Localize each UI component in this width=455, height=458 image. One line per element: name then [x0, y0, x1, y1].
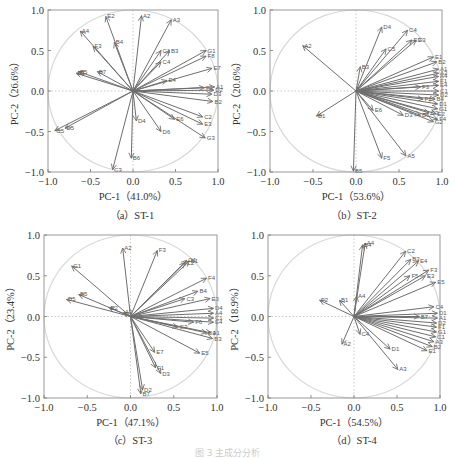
vector-label: E6: [176, 116, 184, 122]
x-axis-label: PC-1（47.1%）: [96, 417, 165, 428]
x-axis-label: PC-1（53.6%）: [322, 191, 391, 202]
vector-label: B4: [199, 288, 207, 294]
vector-label: C5: [388, 46, 396, 52]
vector-label: C4: [409, 27, 417, 33]
vector-label: C2: [407, 248, 415, 254]
vector-label: G1: [73, 263, 82, 269]
vector-label: A2: [124, 245, 132, 251]
vector-label: B3: [362, 64, 370, 70]
vector-label: A3: [173, 17, 181, 23]
vector-label: D1: [392, 346, 400, 352]
y-tick-label: −0.5: [25, 127, 44, 138]
y-tick-label: −1.0: [245, 393, 264, 404]
x-tick-label: 0.0: [126, 176, 139, 187]
loading-vectors: A2D4C4E3G3C5E1B2B3A1A3A4F1E4F3C1D2B4F2D1…: [303, 24, 449, 174]
vector-label: E1: [429, 348, 437, 354]
vector-label: C3: [186, 296, 194, 302]
vector-label: B7: [421, 314, 429, 320]
vector-label: D4: [138, 118, 146, 124]
vector-label: D6: [163, 129, 171, 135]
x-tick-label: 0.0: [347, 402, 360, 413]
vector-label: E5: [437, 279, 445, 285]
y-tick-label: 0.0: [251, 312, 264, 323]
y-axis-label: PC-2（18.9%）: [229, 282, 240, 351]
loading-vectors: E2A2A3A4B4F3C1B3C4G1F8B5E1B7E7E4F1A1D2D3…: [55, 13, 224, 173]
y-tick-label: 0.5: [251, 271, 264, 282]
x-tick-label: 1.0: [210, 402, 223, 413]
vector-label: A2: [304, 43, 312, 49]
panel-caption-b: （b）ST-2: [244, 207, 455, 222]
vector-label: A2: [143, 13, 151, 19]
vector-label: C3: [431, 110, 439, 116]
vector-label: B1: [341, 297, 349, 303]
vector-label: G3: [418, 37, 427, 43]
vector-label: F2: [321, 297, 329, 303]
y-tick-label: 0.5: [253, 46, 266, 57]
y-tick-label: 0.0: [27, 312, 40, 323]
y-tick-label: 0.5: [31, 46, 44, 57]
pca-loading-plot-c: A2F3G1B1C2G1F4B4C3E3B5D5E2A3D4A4C1E4F6G3…: [0, 225, 228, 445]
y-axis-label: PC-2（20.6%）: [231, 57, 242, 126]
vector-label: F6: [195, 319, 203, 325]
x-tick-label: 0.5: [167, 402, 180, 413]
vector-label: E3: [204, 121, 212, 127]
panel-st1: E2A2A3A4B4F3C1B3C4G1F8B5E1B7E7E4F1A1D2D3…: [0, 0, 228, 225]
y-tick-label: 0.0: [31, 86, 44, 97]
vector-label: B7: [99, 69, 107, 75]
y-tick-label: 1.0: [31, 5, 44, 16]
vector-label: C2: [204, 114, 212, 120]
vector-label: A2: [343, 341, 351, 347]
y-axis-label: PC-2（23.4%）: [5, 282, 16, 351]
vector-label: B4: [364, 242, 372, 248]
vector-label: B3: [214, 336, 222, 342]
vector-label: B7: [142, 391, 150, 397]
y-tick-label: 0.5: [27, 271, 40, 282]
vector-label: G3: [207, 135, 216, 141]
vector-label: D4: [383, 24, 391, 30]
vector-label: E6: [375, 107, 383, 113]
y-axis-label: PC-2（26.6%）: [9, 57, 20, 126]
panel-caption-a: （a）ST-1: [22, 207, 242, 222]
panel-caption-c: （c）ST-3: [20, 432, 240, 447]
y-tick-label: −1.0: [25, 167, 44, 178]
vector-label: A3: [399, 366, 407, 372]
x-tick-label: 1.0: [433, 402, 446, 413]
loading-vectors: A4B4C2B3E4F3F5E3E5A4F2B1C4B7D1A1D2F1G1C1…: [320, 240, 448, 372]
x-tick-label: −0.5: [78, 402, 97, 413]
vector-label: F3: [422, 84, 430, 90]
vector-label: E4: [215, 319, 223, 325]
x-tick-label: −0.5: [81, 176, 100, 187]
x-tick-label: 1.0: [211, 176, 224, 187]
x-axis-label: PC-1（41.0%）: [99, 191, 168, 202]
vector-label: A4: [358, 293, 366, 299]
vector-label: E7: [156, 349, 164, 355]
x-tick-label: 1.0: [435, 176, 448, 187]
panel-st4: A4B4C2B3E4F3F5E3E5A4F2B1C4B7D1A1D2F1G1C1…: [228, 225, 455, 445]
pca-loading-plot-b: A2D4C4E3G3C5E1B2B3A1A3A4F1E4F3C1D2B4F2D1…: [228, 0, 455, 225]
x-tick-label: 0.5: [392, 176, 405, 187]
x-tick-label: 0.5: [390, 402, 403, 413]
vector-label: D5: [67, 125, 75, 131]
y-tick-label: −0.5: [21, 352, 40, 363]
x-tick-label: 0.0: [349, 176, 362, 187]
y-tick-label: 0.0: [253, 86, 266, 97]
y-tick-label: −1.0: [247, 167, 266, 178]
y-tick-label: −1.0: [21, 393, 40, 404]
vector-label: E2: [107, 13, 115, 19]
x-axis-label: PC-1（54.5%）: [320, 417, 389, 428]
vector-label: B3: [171, 48, 179, 54]
vector-label: F5: [411, 273, 419, 279]
vector-label: F3: [95, 43, 103, 49]
vector-label: B1: [318, 113, 326, 119]
vector-label: A5: [407, 153, 415, 159]
y-tick-label: 1.0: [27, 230, 40, 241]
vector-label: A3: [125, 309, 133, 315]
vector-label: B4: [116, 39, 124, 45]
vector-label: F5: [383, 155, 391, 161]
vector-label: B5: [80, 291, 88, 297]
vector-label: F3: [159, 247, 167, 253]
x-tick-label: −0.5: [301, 402, 320, 413]
vector-label: E4: [420, 258, 428, 264]
vector-label: E3: [212, 296, 220, 302]
vector-label: C4: [163, 59, 171, 65]
